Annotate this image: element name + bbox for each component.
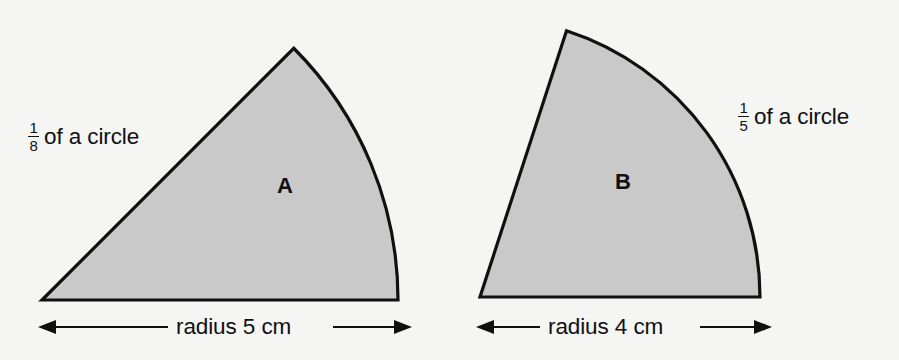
- fraction-b-denominator: 5: [738, 117, 748, 133]
- fraction-label-a: 1 8 of a circle: [28, 120, 139, 154]
- sector-shape-a: [42, 48, 398, 300]
- fraction-a-denominator: 8: [28, 137, 38, 153]
- arrow-head-left-b: [476, 320, 494, 334]
- shape-letter-b: B: [615, 171, 631, 193]
- fraction-label-b: 1 5 of a circle: [738, 100, 849, 134]
- sector-shape-b: [480, 31, 760, 297]
- fraction-a-numerator: 1: [28, 120, 38, 136]
- figure-canvas: [0, 0, 899, 360]
- arrow-head-right-a: [394, 320, 412, 334]
- fraction-a: 1 8: [28, 120, 39, 154]
- fraction-b: 1 5: [738, 100, 749, 134]
- dimension-text-b: radius 4 cm: [548, 316, 663, 339]
- fraction-b-text: of a circle: [754, 106, 849, 129]
- geometry-figure: 1 8 of a circle 1 5 of a circle A B radi…: [0, 0, 899, 360]
- fraction-b-numerator: 1: [738, 100, 748, 116]
- arrow-head-right-b: [754, 320, 772, 334]
- dimension-text-a: radius 5 cm: [176, 316, 291, 339]
- arrow-head-left-a: [38, 320, 56, 334]
- fraction-a-text: of a circle: [44, 126, 139, 149]
- shape-letter-a: A: [277, 175, 293, 197]
